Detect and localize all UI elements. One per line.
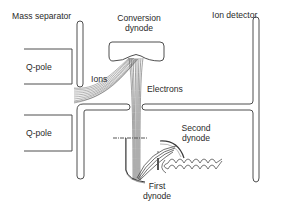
label-conversion-dynode-1: Conversion (114, 13, 164, 23)
electron-beam (129, 58, 143, 180)
label-second-dynode-2: dynode (176, 133, 216, 143)
label-ions: Ions (91, 74, 107, 84)
entrance-lens-lower (77, 104, 130, 179)
label-first-dynode-1: First (137, 181, 177, 191)
label-electrons: Electrons (147, 84, 183, 94)
label-mass-separator: Mass separator (12, 11, 71, 21)
first-dynode-post (157, 158, 159, 170)
electron-cascade (137, 146, 176, 180)
label-second-dynode-1: Second (176, 123, 216, 133)
entrance-lens-upper (77, 21, 83, 87)
label-ion-detector: Ion detector (212, 10, 257, 20)
label-qpole-top: Q-pole (26, 62, 52, 72)
electron-multiplier-coil (162, 159, 222, 173)
label-qpole-bottom: Q-pole (26, 128, 52, 138)
label-first-dynode-2: dynode (137, 191, 177, 201)
label-conversion-dynode-2: dynode (114, 23, 164, 33)
conversion-dynode (109, 42, 164, 61)
